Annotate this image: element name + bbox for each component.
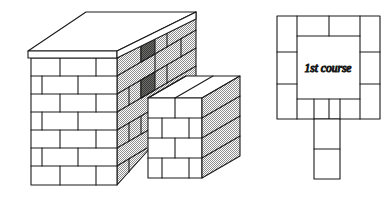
- masonry-construction-figure: 1st course: [0, 0, 388, 199]
- first-course-plan: 1st course: [277, 16, 380, 179]
- wing-wall: [148, 76, 240, 178]
- pier-front-face: [31, 58, 117, 185]
- plan-course-label: 1st course: [305, 62, 352, 74]
- masonry-pier-isometric: [28, 12, 240, 185]
